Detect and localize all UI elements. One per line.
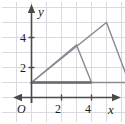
x-axis-left-arrow-icon: [13, 94, 22, 101]
geometry-diagram-svg: 2 4 2 4 y x O: [0, 0, 125, 124]
x-tick-label-2: 2: [55, 102, 61, 116]
y-axis-arrow-icon: [28, 4, 35, 13]
y-tick-label-4: 4: [20, 31, 26, 45]
x-tick-label-4: 4: [85, 102, 91, 116]
y-axis-label: y: [36, 4, 44, 19]
origin-label: O: [17, 102, 26, 116]
coordinate-plane-figure: 2 4 2 4 y x O: [0, 0, 125, 124]
y-tick-label-2: 2: [20, 61, 26, 75]
x-axis-arrow-icon: [112, 94, 121, 101]
x-axis-label: x: [107, 102, 114, 117]
